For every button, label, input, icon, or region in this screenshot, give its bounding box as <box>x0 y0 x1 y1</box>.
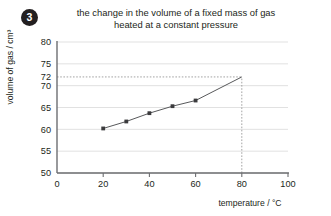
y-tick-label-70: 70 <box>41 81 51 91</box>
y-tick-label-50: 50 <box>41 168 51 178</box>
extrapolation-line <box>196 77 242 101</box>
x-tick-label-80: 80 <box>237 179 247 189</box>
x-tick-label-20: 20 <box>98 179 108 189</box>
data-point-40 <box>148 111 152 115</box>
x-tick-label-100: 100 <box>280 179 295 189</box>
y-tick-label-55: 55 <box>41 146 51 156</box>
x-tick-label-40: 40 <box>144 179 154 189</box>
y-tick-label-75: 75 <box>41 59 51 69</box>
figure-container: 3 the change in the volume of a fixed ma… <box>0 0 331 216</box>
data-point-60 <box>194 99 198 103</box>
data-point-50 <box>171 104 175 108</box>
x-tick-label-0: 0 <box>54 179 59 189</box>
x-tick-label-60: 60 <box>190 179 200 189</box>
chart-plot: 5055606570758072 020406080100 <box>0 0 331 216</box>
y-tick-label-72: 72 <box>41 72 51 82</box>
x-tick-labels-group: 020406080100 <box>54 179 295 189</box>
y-tick-label-60: 60 <box>41 125 51 135</box>
data-point-30 <box>124 120 128 124</box>
y-tick-labels-group: 5055606570758072 <box>41 37 51 178</box>
y-tick-label-65: 65 <box>41 103 51 113</box>
y-tick-label-80: 80 <box>41 37 51 47</box>
data-point-20 <box>101 127 105 131</box>
